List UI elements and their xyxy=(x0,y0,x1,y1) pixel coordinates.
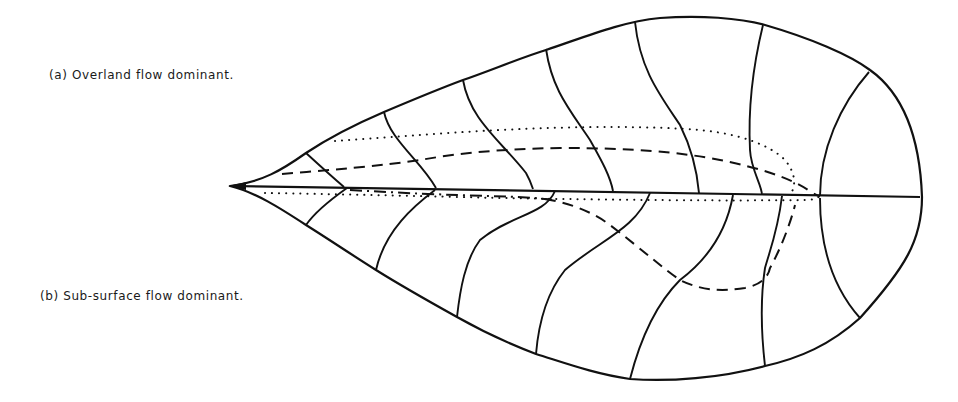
contour-lower-4 xyxy=(536,193,650,354)
dotted-boundary-upper xyxy=(335,127,794,195)
contour-lower-3 xyxy=(457,191,555,317)
contour-upper-7 xyxy=(820,72,869,196)
contour-upper-2 xyxy=(384,112,436,188)
contour-upper-4 xyxy=(546,49,613,191)
contour-lower-1 xyxy=(306,188,347,225)
contour-upper-5 xyxy=(635,22,699,193)
contour-lower-5 xyxy=(630,195,733,379)
dashed-flowpath-subsurface xyxy=(545,199,795,290)
contour-lower-7 xyxy=(820,198,860,318)
contour-upper-3 xyxy=(463,80,533,189)
contour-lower-6 xyxy=(762,196,782,366)
contour-lower-2 xyxy=(376,190,435,270)
basin-diagram xyxy=(0,0,958,402)
